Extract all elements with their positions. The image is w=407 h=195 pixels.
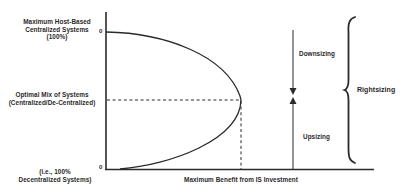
max-centralized-label-line-2: Centralized Systems <box>12 26 102 34</box>
rightsizing-label: Rightsizing <box>357 86 395 94</box>
downsizing-label: Downsizing <box>299 50 335 58</box>
upsizing-label: Upsizing <box>303 133 330 141</box>
decentralized-label-line-2: Decentralized Systems) <box>10 176 100 184</box>
optimal-mix-label: Optimal Mix of Systems (Centralized/De-C… <box>2 91 102 106</box>
decentralized-label-line-1: (i.e., 100% <box>10 168 100 176</box>
decentralized-label: (i.e., 100% Decentralized Systems) <box>10 168 100 183</box>
max-centralized-label: Maximum Host-Based Centralized Systems (… <box>12 18 102 41</box>
optimal-mix-label-line-1: Optimal Mix of Systems <box>2 91 102 99</box>
max-centralized-label-line-1: Maximum Host-Based <box>12 18 102 26</box>
max-centralized-label-line-3: (100%) <box>12 33 102 41</box>
benefit-curve-lower <box>120 100 241 169</box>
x-axis-label: Maximum Benefit from IS Investment <box>171 176 311 184</box>
benefit-curve-upper <box>106 32 241 100</box>
rightsizing-diagram: 0 0 Maximum Host-Based Centralized Syste… <box>0 0 407 195</box>
downsizing-arrowhead-icon <box>290 88 297 95</box>
upsizing-arrowhead-icon <box>290 97 297 104</box>
optimal-mix-label-line-2: (Centralized/De-Centralized) <box>2 99 102 107</box>
rightsizing-brace-icon <box>345 17 356 163</box>
